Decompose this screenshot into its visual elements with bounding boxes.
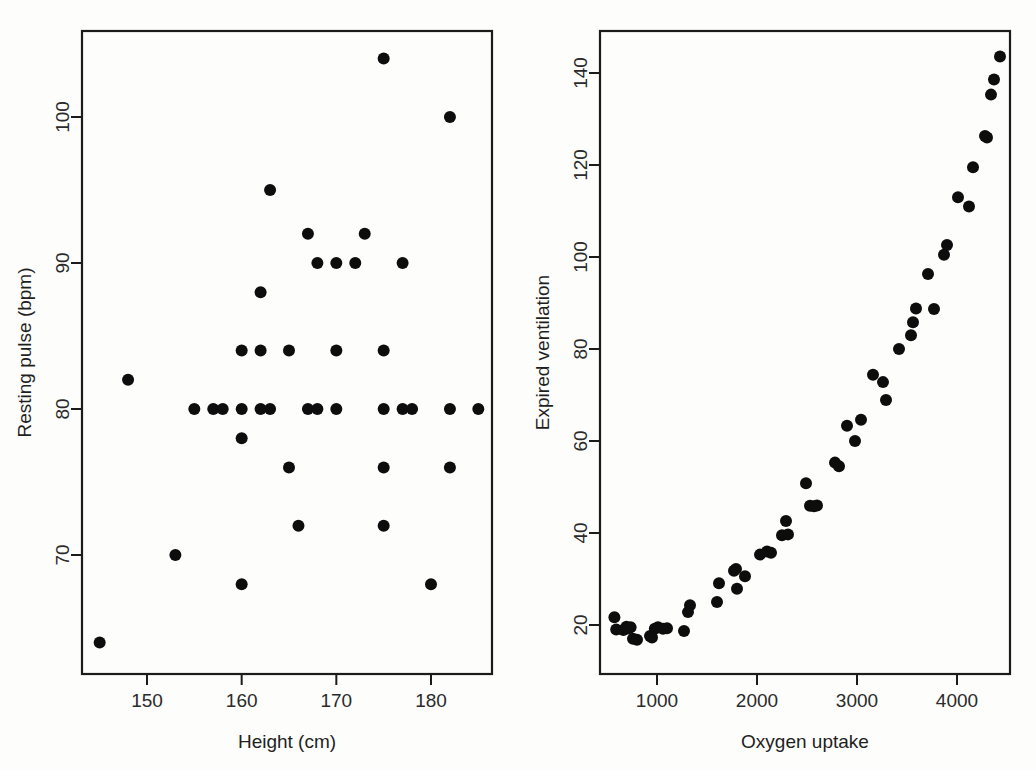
data-point	[780, 515, 792, 527]
data-point	[855, 414, 867, 426]
data-point	[236, 432, 248, 444]
x-tick-label: 170	[320, 690, 352, 711]
x-tick-label: 3000	[836, 690, 878, 711]
x-tick-label: 160	[226, 690, 258, 711]
data-point	[349, 257, 361, 269]
data-point	[283, 345, 295, 357]
data-point	[311, 257, 323, 269]
data-point	[625, 621, 637, 633]
data-point	[922, 268, 934, 280]
data-point	[378, 461, 390, 473]
y-tick-label: 80	[52, 398, 73, 419]
y-tick-label: 100	[570, 241, 591, 273]
data-point	[907, 316, 919, 328]
data-point	[684, 599, 696, 611]
data-point	[849, 435, 861, 447]
y-tick-label: 100	[52, 101, 73, 133]
data-point	[985, 89, 997, 101]
data-point	[217, 403, 229, 415]
data-point	[867, 369, 879, 381]
data-point	[255, 345, 267, 357]
data-point	[255, 286, 267, 298]
x-tick-label: 1000	[636, 690, 678, 711]
y-tick-label: 20	[570, 614, 591, 635]
data-point	[444, 111, 456, 123]
data-point	[378, 345, 390, 357]
scatter-plot-height-vs-pulse: 150160170180708090100Height (cm)Resting …	[0, 0, 518, 770]
y-tick-label: 80	[570, 338, 591, 359]
data-point	[330, 345, 342, 357]
plot-frame	[600, 31, 1010, 674]
data-point	[893, 343, 905, 355]
data-point	[928, 303, 940, 315]
data-point	[283, 461, 295, 473]
y-axis-title: Expired ventilation	[532, 275, 553, 430]
data-point	[782, 528, 794, 540]
x-tick-label: 2000	[736, 690, 778, 711]
y-tick-label: 40	[570, 522, 591, 543]
data-series	[94, 53, 485, 649]
data-point	[713, 577, 725, 589]
data-point	[910, 303, 922, 315]
data-point	[811, 499, 823, 511]
x-axis-title: Oxygen uptake	[741, 731, 869, 752]
x-tick-label: 4000	[936, 690, 978, 711]
data-point	[877, 376, 889, 388]
data-point	[378, 53, 390, 65]
data-point	[905, 329, 917, 341]
data-point	[122, 374, 134, 386]
y-tick-label: 90	[52, 252, 73, 273]
y-tick-label: 120	[570, 149, 591, 181]
data-point	[359, 228, 371, 240]
figure-canvas: 150160170180708090100Height (cm)Resting …	[0, 0, 1036, 770]
data-point	[188, 403, 200, 415]
data-point	[941, 239, 953, 251]
data-series	[608, 50, 1006, 645]
data-point	[472, 403, 484, 415]
data-point	[739, 570, 751, 582]
data-point	[711, 596, 723, 608]
data-point	[378, 403, 390, 415]
data-point	[880, 394, 892, 406]
data-point	[444, 461, 456, 473]
data-point	[608, 611, 620, 623]
scatter-plot-oxygen-vs-ventilation: 100020003000400020406080100120140Oxygen …	[518, 0, 1036, 770]
data-point	[406, 403, 418, 415]
data-point	[169, 549, 181, 561]
data-point	[425, 578, 437, 590]
y-tick-label: 60	[570, 430, 591, 451]
data-point	[833, 460, 845, 472]
data-point	[264, 184, 276, 196]
data-point	[236, 345, 248, 357]
data-point	[94, 637, 106, 649]
x-axis-title: Height (cm)	[238, 731, 336, 752]
data-point	[731, 583, 743, 595]
data-point	[841, 420, 853, 432]
data-point	[952, 191, 964, 203]
data-point	[981, 131, 993, 143]
data-point	[800, 477, 812, 489]
data-point	[631, 634, 643, 646]
data-point	[444, 403, 456, 415]
y-tick-label: 70	[52, 544, 73, 565]
data-point	[330, 257, 342, 269]
data-point	[994, 50, 1006, 62]
data-point	[264, 403, 276, 415]
data-point	[988, 73, 1000, 85]
data-point	[661, 622, 673, 634]
x-tick-label: 150	[131, 690, 163, 711]
data-point	[678, 625, 690, 637]
data-point	[967, 161, 979, 173]
data-point	[765, 547, 777, 559]
data-point	[311, 403, 323, 415]
data-point	[378, 520, 390, 532]
scatter-panel-right: 100020003000400020406080100120140Oxygen …	[518, 0, 1036, 770]
scatter-panel-left: 150160170180708090100Height (cm)Resting …	[0, 0, 518, 770]
data-point	[302, 228, 314, 240]
data-point	[963, 200, 975, 212]
data-point	[236, 403, 248, 415]
data-point	[236, 578, 248, 590]
y-axis-title: Resting pulse (bpm)	[14, 267, 35, 437]
data-point	[292, 520, 304, 532]
data-point	[330, 403, 342, 415]
